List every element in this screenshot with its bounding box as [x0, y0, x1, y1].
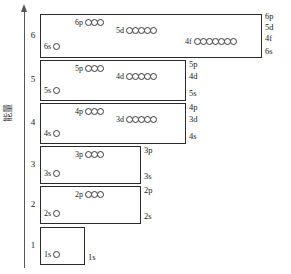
shell-number-4: 4 — [28, 117, 38, 127]
orbital-label-4s: 4s — [44, 129, 51, 138]
orbital-cell — [53, 170, 60, 177]
right-label-3p: 3p — [144, 146, 153, 155]
right-label-3d: 3d — [189, 115, 198, 124]
right-label-3s: 3s — [144, 172, 152, 181]
right-label-4d: 4d — [189, 72, 198, 81]
orbital-label-4p: 4p — [75, 107, 83, 116]
orbital-cell — [97, 191, 104, 198]
orbital-label-2s: 2s — [44, 209, 51, 218]
orbital-label-6p: 6p — [75, 18, 83, 27]
shell-box-6 — [40, 14, 262, 58]
orbital-cell — [53, 251, 60, 258]
orbital-cell — [97, 151, 104, 158]
right-label-4s: 4s — [189, 132, 197, 141]
orbital-group-4s: 4s — [44, 129, 59, 138]
shell-number-1: 1 — [28, 240, 38, 250]
orbital-group-2s: 2s — [44, 209, 59, 218]
orbital-cells-6s — [53, 43, 59, 50]
orbital-cells-6p — [85, 19, 103, 26]
orbital-label-4f: 4f — [185, 37, 192, 46]
orbital-label-4d: 4d — [116, 72, 124, 81]
right-label-5d: 5d — [265, 23, 274, 32]
orbital-cells-4p — [85, 108, 103, 115]
orbital-cells-3s — [53, 170, 59, 177]
orbital-cell — [150, 27, 157, 34]
right-label-4f: 4f — [265, 34, 272, 43]
shell-number-3: 3 — [28, 159, 38, 169]
orbital-cells-4f — [194, 38, 236, 45]
energy-level-diagram: 能量 6 6s 6p 5d 4f 6p 5d 4f 6s 5 5s 5p — [0, 0, 291, 274]
orbital-cell — [53, 210, 60, 217]
orbital-cell — [97, 65, 104, 72]
right-label-6p: 6p — [265, 12, 274, 21]
right-label-1s: 1s — [88, 253, 96, 262]
orbital-label-3s: 3s — [44, 169, 51, 178]
right-label-4p: 4p — [189, 103, 198, 112]
orbital-cells-5p — [85, 65, 103, 72]
orbital-cells-4s — [53, 130, 59, 137]
orbital-group-4p: 4p — [75, 107, 103, 116]
orbital-cells-2p — [85, 191, 103, 198]
orbital-label-1s: 1s — [44, 250, 51, 259]
shell-number-5: 5 — [28, 74, 38, 84]
orbital-group-4f: 4f — [185, 37, 236, 46]
orbital-group-3s: 3s — [44, 169, 59, 178]
orbital-label-5s: 5s — [44, 86, 51, 95]
orbital-cells-3p — [85, 151, 103, 158]
orbital-label-3p: 3p — [75, 150, 83, 159]
shell-box-4 — [40, 103, 186, 144]
orbital-group-6p: 6p — [75, 18, 103, 27]
orbital-cell — [150, 116, 157, 123]
energy-axis-line — [24, 10, 25, 268]
shell-box-1 — [40, 227, 85, 265]
shell-number-2: 2 — [28, 199, 38, 209]
orbital-group-5s: 5s — [44, 86, 59, 95]
orbital-group-3p: 3p — [75, 150, 103, 159]
orbital-cells-2s — [53, 210, 59, 217]
orbital-label-5p: 5p — [75, 64, 83, 73]
orbital-cell — [150, 73, 157, 80]
orbital-group-5d: 5d — [116, 26, 156, 35]
orbital-cell — [53, 87, 60, 94]
energy-axis-label: 能量 — [3, 89, 13, 137]
orbital-group-5p: 5p — [75, 64, 103, 73]
shell-box-5 — [40, 60, 186, 101]
right-label-5p: 5p — [189, 60, 198, 69]
orbital-label-5d: 5d — [116, 26, 124, 35]
orbital-group-1s: 1s — [44, 250, 59, 259]
right-label-5s: 5s — [189, 89, 197, 98]
orbital-group-3d: 3d — [116, 115, 156, 124]
orbital-label-2p: 2p — [75, 190, 83, 199]
orbital-cells-3d — [126, 116, 156, 123]
orbital-group-2p: 2p — [75, 190, 103, 199]
orbital-cells-1s — [53, 251, 59, 258]
orbital-group-4d: 4d — [116, 72, 156, 81]
orbital-label-3d: 3d — [116, 115, 124, 124]
orbital-cell — [230, 38, 237, 45]
orbital-cell — [97, 108, 104, 115]
orbital-cell — [53, 130, 60, 137]
right-label-6s: 6s — [265, 47, 273, 56]
right-label-2s: 2s — [144, 212, 152, 221]
orbital-cells-5s — [53, 87, 59, 94]
right-label-2p: 2p — [144, 186, 153, 195]
orbital-cells-4d — [126, 73, 156, 80]
orbital-group-6s: 6s — [44, 42, 59, 51]
orbital-cell — [53, 43, 60, 50]
orbital-label-6s: 6s — [44, 42, 51, 51]
shell-number-6: 6 — [28, 30, 38, 40]
orbital-cell — [97, 19, 104, 26]
orbital-cells-5d — [126, 27, 156, 34]
